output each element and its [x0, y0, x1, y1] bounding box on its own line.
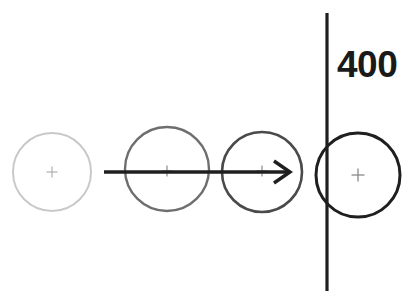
motion-arrow — [104, 161, 290, 183]
center-crosshair-icon-4 — [352, 169, 365, 182]
threshold-label: 400 — [337, 46, 397, 83]
diagram-canvas: 400 — [0, 0, 416, 308]
center-crosshair-icon-1 — [47, 167, 58, 178]
